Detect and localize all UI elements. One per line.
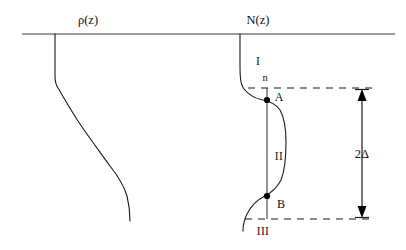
region-iii-label: III	[257, 225, 269, 237]
point-b-label: B	[277, 197, 285, 211]
point-a-label: A	[275, 90, 284, 104]
rho-curve	[55, 34, 130, 221]
gap-arrow-up-icon	[358, 89, 367, 101]
rho-axis-label: ρ(z)	[78, 13, 98, 27]
n-axis-label: N(z)	[247, 13, 270, 27]
point-b-marker	[264, 193, 270, 199]
region-ii-label: II	[275, 150, 283, 162]
density-n-label: n	[262, 72, 268, 83]
figure-container: ρ(z) N(z) I n A II B III 2Δ	[0, 0, 406, 250]
point-a-marker	[264, 97, 270, 103]
region-i-label: I	[256, 55, 260, 67]
gap-arrow-down-icon	[358, 206, 367, 218]
physics-profile-diagram: ρ(z) N(z) I n A II B III 2Δ	[0, 0, 406, 250]
gap-measure-label: 2Δ	[355, 147, 369, 161]
